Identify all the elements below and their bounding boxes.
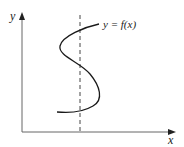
y-axis-label: y [9, 9, 16, 23]
graph-diagram: y x y = f(x) [0, 0, 184, 147]
x-axis-label: x [167, 133, 174, 147]
curve-f-of-x [57, 24, 100, 112]
curve-label: y = f(x) [102, 18, 136, 31]
y-axis-arrow-icon [19, 12, 25, 20]
